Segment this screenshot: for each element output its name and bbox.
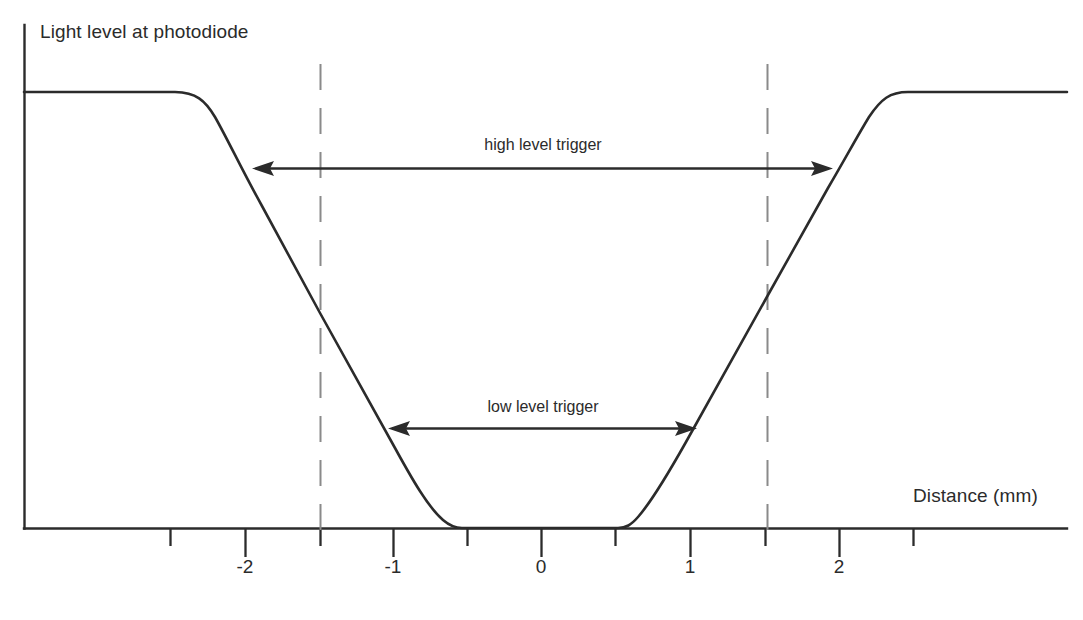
x-tick-label-minus2: -2 — [237, 556, 254, 578]
light-level-curve-chart — [0, 0, 1083, 620]
x-tick-label-one: 1 — [685, 556, 696, 578]
x-tick-label-two: 2 — [834, 556, 845, 578]
low-level-trigger-arrow — [388, 421, 697, 436]
x-axis-major-ticks — [246, 528, 840, 557]
figure-canvas: Light level at photodiode Distance (mm) … — [0, 0, 1083, 620]
light-level-curve — [24, 92, 1067, 528]
high-level-trigger-arrow — [252, 161, 833, 176]
high-level-trigger-label: high level trigger — [484, 136, 601, 154]
x-axis-label: Distance (mm) — [913, 485, 1038, 507]
y-axis-label: Light level at photodiode — [40, 21, 249, 43]
x-tick-label-zero: 0 — [536, 556, 547, 578]
x-tick-label-minus1: -1 — [385, 556, 402, 578]
low-level-trigger-label: low level trigger — [487, 398, 598, 416]
